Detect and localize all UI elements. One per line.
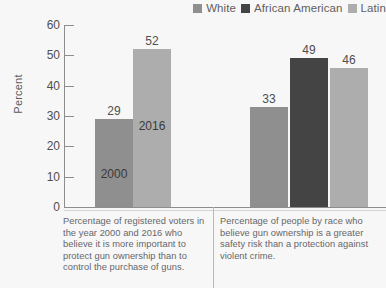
- bar-value-2016: 52: [132, 35, 172, 48]
- y-tick-label-60: 60: [14, 19, 60, 31]
- y-tick-label-10: 10: [14, 171, 60, 183]
- bar-value-white: 33: [249, 93, 289, 106]
- bar-african-american[interactable]: [290, 58, 328, 207]
- bar-label-2016: 2016: [129, 120, 175, 133]
- x-axis-line: [64, 207, 386, 208]
- panel-divider: [213, 207, 214, 288]
- bar-white[interactable]: [250, 107, 288, 207]
- bar-label-2000: 2000: [91, 168, 137, 181]
- legend-label-african-american: African American: [254, 2, 343, 14]
- y-tick-label-40: 40: [14, 80, 60, 92]
- legend-swatch-african-american: [241, 4, 250, 13]
- y-tick-label-0: 0: [14, 201, 60, 213]
- y-tick-label-30: 30: [14, 110, 60, 122]
- y-tick-label-50: 50: [14, 49, 60, 61]
- legend-label-white: White: [206, 2, 236, 14]
- y-axis-title: Percent: [12, 54, 24, 134]
- legend-swatch-white: [193, 4, 202, 13]
- bar-2000[interactable]: [95, 119, 133, 207]
- legend-item-white: White: [193, 2, 236, 14]
- caption-separator-rule: [64, 210, 386, 211]
- plot-area: 29 2000 52 2016 33 49 46: [65, 25, 386, 207]
- bar-value-african-american: 49: [289, 44, 329, 57]
- y-tick-label-20: 20: [14, 140, 60, 152]
- legend-label-latin: Latin: [361, 2, 386, 14]
- bar-latin[interactable]: [330, 68, 368, 207]
- bar-value-2000: 29: [94, 105, 134, 118]
- panel-caption-right: Percentage of people by race who believe…: [220, 216, 382, 262]
- bar-value-latin: 46: [329, 54, 369, 67]
- panel-caption-left: Percentage of registered voters in the y…: [63, 216, 208, 274]
- chart-legend: White African American Latin: [193, 1, 386, 15]
- legend-swatch-latin: [348, 4, 357, 13]
- legend-item-african-american: African American: [241, 2, 343, 14]
- legend-item-latin: Latin: [348, 2, 386, 14]
- bar-chart-figure: White African American Latin Percent 60 …: [0, 0, 386, 288]
